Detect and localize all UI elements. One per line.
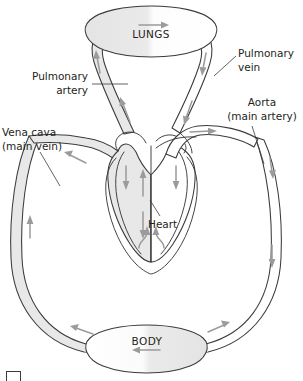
- flow-arrow-vena-cava-bottom: [70, 324, 93, 334]
- body-label: BODY: [132, 335, 163, 347]
- aorta-vessel: [186, 137, 281, 353]
- label-pulmonary-artery-line1: Pulmonary: [2, 70, 88, 84]
- heart-right-side: [108, 144, 151, 262]
- flow-arrow-vena-cava-lower: [27, 215, 34, 238]
- label-vena-cava-line2: (main vein): [2, 140, 94, 154]
- leader-pulmonary-vein: [214, 56, 236, 76]
- label-pulmonary-artery-line2: artery: [2, 84, 88, 98]
- body-organ: [86, 325, 207, 373]
- lungs-label: LUNGS: [132, 28, 170, 40]
- label-vena-cava-line1: Vena cava: [2, 126, 94, 140]
- flow-arrow-aorta-bottom: [208, 321, 230, 333]
- legend-swatch: [6, 371, 21, 381]
- label-pulmonary-vein-line2: vein: [238, 61, 301, 75]
- vena-cava-vessel: [11, 136, 108, 353]
- label-pulmonary-vein-line1: Pulmonary: [238, 47, 301, 61]
- legend: [6, 371, 27, 381]
- circulatory-system-diagram: LUNGS BODY Pulmonary artery Vena cava (m…: [0, 0, 303, 381]
- label-vena-cava: Vena cava (main vein): [2, 126, 94, 153]
- leader-vena-cava: [40, 152, 60, 186]
- label-heart: Heart: [148, 218, 192, 232]
- label-pulmonary-artery: Pulmonary artery: [2, 70, 88, 97]
- label-aorta-line1: Aorta: [222, 96, 302, 110]
- label-pulmonary-vein: Pulmonary vein: [238, 47, 301, 74]
- label-aorta: Aorta (main artery): [222, 96, 302, 123]
- label-aorta-line2: (main artery): [222, 110, 302, 124]
- heart-left-side: [151, 147, 195, 262]
